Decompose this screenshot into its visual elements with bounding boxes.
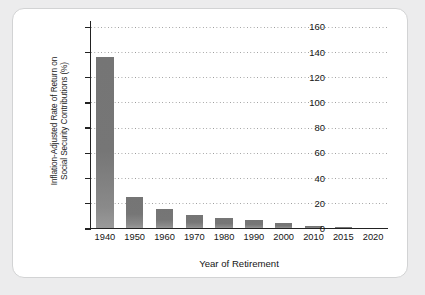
bar	[156, 209, 173, 228]
bar	[96, 57, 113, 227]
bar	[245, 220, 262, 228]
page-background: Inflation-Adjusted Rate of Return on Soc…	[0, 0, 425, 295]
gridline	[91, 178, 388, 179]
gridline	[91, 27, 388, 28]
gridline	[91, 77, 388, 78]
bar	[186, 215, 203, 228]
bar-chart-figure: Inflation-Adjusted Rate of Return on Soc…	[13, 9, 409, 279]
y-axis-tick	[85, 203, 91, 204]
y-axis-title-line-1: Inflation-Adjusted Rate of Return on	[50, 57, 60, 185]
y-tick-label: 80	[285, 123, 325, 133]
x-tick-label: 2000	[269, 233, 299, 242]
y-tick-label: 160	[285, 22, 325, 32]
y-axis-tick	[85, 153, 91, 154]
x-tick-label: 2020	[358, 233, 388, 242]
x-axis-line	[90, 228, 388, 229]
y-axis-tick	[85, 127, 91, 128]
x-axis-title: Year of Retirement	[90, 258, 388, 269]
y-tick-label: 100	[285, 98, 325, 108]
gridline	[91, 52, 388, 53]
gridline	[91, 102, 388, 103]
plot-area: 1940195019601970198019902000201020152020	[90, 21, 388, 229]
x-tick-label: 2010	[299, 233, 329, 242]
y-axis-tick	[85, 178, 91, 179]
bar	[215, 218, 232, 228]
y-axis-tick	[85, 228, 91, 229]
y-axis-title: Inflation-Adjusted Rate of Return on Soc…	[43, 16, 77, 226]
x-tick-label: 1980	[209, 233, 239, 242]
x-tick-label: 1950	[120, 233, 150, 242]
x-tick-label: 1940	[90, 233, 120, 242]
figure-card: Inflation-Adjusted Rate of Return on Soc…	[12, 8, 408, 278]
x-tick-label: 2015	[328, 233, 358, 242]
gridline	[91, 153, 388, 154]
y-axis-title-line-2: Social Security Contributions (%)	[60, 62, 70, 180]
bar	[126, 197, 143, 227]
y-tick-label: 40	[285, 174, 325, 184]
y-axis-tick	[85, 27, 91, 28]
x-tick-label: 1970	[179, 233, 209, 242]
x-tick-label: 1960	[150, 233, 180, 242]
y-axis-tick	[85, 102, 91, 103]
y-tick-label: 140	[285, 48, 325, 58]
bar	[335, 227, 352, 228]
y-axis-tick	[85, 77, 91, 78]
y-tick-label: 20	[285, 199, 325, 209]
y-tick-label: 120	[285, 73, 325, 83]
gridline	[91, 128, 388, 129]
y-tick-label: 0	[285, 224, 325, 234]
y-axis-tick	[85, 52, 91, 53]
y-tick-label: 60	[285, 148, 325, 158]
x-tick-label: 1990	[239, 233, 269, 242]
